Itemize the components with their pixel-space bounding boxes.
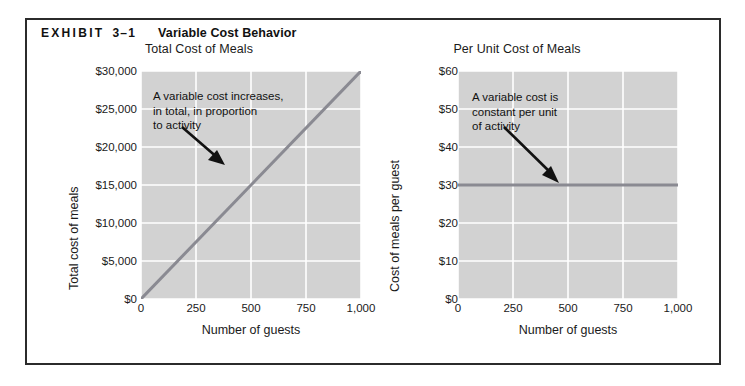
chart-title-total-cost: Total Cost of Meals	[49, 42, 349, 56]
annotation-arrow-total-cost	[182, 127, 225, 165]
y-tick-label: $30	[439, 179, 458, 191]
x-tick-label: 1,000	[664, 302, 693, 314]
chart-panel-total-cost: Total Cost of Meals	[29, 42, 369, 352]
exhibit-label: EXHIBIT	[41, 26, 104, 40]
x-tick-label: 250	[186, 302, 205, 314]
plot-area-per-unit-cost: A variable cost is constant per unit of …	[458, 71, 678, 299]
exhibit-number: 3–1	[112, 26, 136, 40]
chart-panel-per-unit-cost: Per Unit Cost of Meals	[337, 42, 677, 352]
annotation-text-per-unit-cost: A variable cost is constant per unit of …	[472, 90, 558, 134]
y-tick-label: $0	[124, 293, 137, 305]
x-axis-title-per-unit-cost: Number of guests	[438, 323, 698, 337]
y-tick-label: $5,000	[102, 255, 137, 267]
x-axis-ticks-per-unit-cost: 0 250 500 750 1,000	[458, 302, 678, 320]
x-axis-ticks-total-cost: 0 250 500 750 1,000	[141, 302, 361, 320]
y-axis-title-per-unit-cost: Cost of meals per guest	[388, 160, 402, 292]
x-tick-label: 750	[613, 302, 632, 314]
exhibit-title: Variable Cost Behavior	[158, 26, 296, 40]
y-tick-label: $10	[439, 255, 458, 267]
exhibit-frame: EXHIBIT 3–1 Variable Cost Behavior Total…	[25, 18, 721, 365]
x-tick-label: 750	[296, 302, 315, 314]
y-tick-label: $30,000	[95, 65, 137, 77]
plot-area-total-cost: A variable cost increases, in total, in …	[141, 71, 361, 299]
chart-title-per-unit-cost: Per Unit Cost of Meals	[367, 42, 667, 56]
y-tick-label: $40	[439, 141, 458, 153]
exhibit-header: EXHIBIT 3–1 Variable Cost Behavior	[41, 26, 296, 40]
y-tick-label: $50	[439, 103, 458, 115]
y-axis-title-total-cost: Total cost of meals	[67, 186, 81, 290]
y-tick-label: $10,000	[95, 217, 137, 229]
y-tick-label: $25,000	[95, 103, 137, 115]
y-axis-ticks-total-cost: $0 $5,000 $10,000 $15,000 $20,000 $25,00…	[75, 71, 137, 299]
x-tick-label: 0	[455, 302, 461, 314]
y-tick-label: $60	[439, 65, 458, 77]
x-tick-label: 500	[558, 302, 577, 314]
y-tick-label: $20	[439, 217, 458, 229]
x-tick-label: 500	[241, 302, 260, 314]
y-tick-label: $20,000	[95, 141, 137, 153]
x-tick-label: 0	[138, 302, 144, 314]
annotation-text-total-cost: A variable cost increases, in total, in …	[153, 89, 283, 133]
y-tick-label: $15,000	[95, 179, 137, 191]
y-axis-ticks-per-unit-cost: $0 $10 $20 $30 $40 $50 $60	[396, 71, 458, 299]
x-tick-label: 250	[503, 302, 522, 314]
